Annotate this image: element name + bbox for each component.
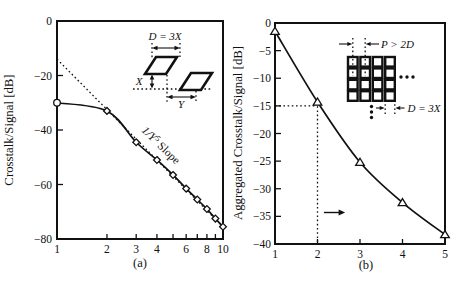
x-tick-label: 3: [357, 248, 363, 260]
ellipsis-dot: [370, 116, 373, 119]
panel-label-a: (a): [133, 256, 147, 270]
x-tick-label: 6: [183, 243, 189, 255]
antenna-cell: [385, 91, 395, 101]
inset-x-label: X: [135, 75, 144, 87]
y-tick-label: −20: [253, 128, 271, 140]
inset-d-label: D = 3X: [147, 30, 182, 42]
plot-area-b: 123450−5−10−15−20−25−30−35−40: [253, 17, 449, 260]
slope-annotation: 1/Y5 Slope: [139, 123, 183, 167]
arrow-right-icon: [347, 42, 352, 46]
antenna-cell: [360, 91, 370, 101]
antenna-cell: [373, 68, 383, 78]
data-marker-triangle: [271, 27, 280, 34]
arrow-down-icon: [150, 84, 155, 89]
ellipsis-dot: [370, 105, 373, 108]
arrow-right-icon: [380, 106, 385, 110]
y-tick-label: −60: [34, 179, 52, 191]
crosstalk-curve: [57, 103, 223, 227]
figure-crosstalk: Crosstalk/Signal [dB] (a) 1/Y5 Slope: [0, 0, 465, 286]
antenna-cell: [348, 80, 358, 90]
data-marker-triangle: [313, 98, 322, 105]
antenna-cell: [348, 91, 358, 101]
x-tick-label: 2: [315, 248, 321, 260]
inset-p-label: P > 2D: [380, 38, 414, 50]
plot-area-a: 123468100−20−40−60−80: [34, 15, 229, 255]
y-tick-label: −5: [259, 45, 271, 57]
antenna-cell: [360, 80, 370, 90]
y-tick-label: −80: [34, 233, 52, 245]
antenna-cell: [348, 57, 358, 67]
arrow-left-icon: [167, 95, 173, 100]
plot-frame-a: [57, 21, 223, 239]
x-tick-label: 4: [400, 248, 406, 260]
panel-label-b: (b): [359, 258, 374, 272]
arrow-left-icon: [366, 42, 371, 46]
y-tick-label: 0: [46, 15, 52, 27]
antenna-cell: [373, 57, 383, 67]
arrow-right-icon: [191, 95, 197, 100]
ellipsis-dot: [370, 110, 373, 113]
y-axis-title-b: Aggregated Crosstalk/Signal [dB]: [232, 46, 245, 220]
arrow-left-icon: [395, 106, 400, 110]
x-tick-label: 1: [54, 243, 60, 255]
inset-antenna-pair: D = 3X X Y: [133, 30, 212, 110]
inset-antenna-array: P > 2D D = 3X: [339, 38, 442, 119]
y-tick-label: −30: [253, 183, 271, 195]
inset-y-label: Y: [178, 98, 186, 110]
arrow-right-icon: [175, 46, 181, 51]
x-tick-label: 10: [217, 243, 229, 255]
data-marker-circle: [54, 99, 61, 106]
panel-a-svg: Crosstalk/Signal [dB] (a) 1/Y5 Slope: [0, 0, 232, 286]
x-tick-label: 3: [133, 243, 139, 255]
ellipsis-dot: [411, 75, 414, 78]
y-axis-title-a: Crosstalk/Signal [dB]: [2, 74, 16, 185]
antenna-parallelogram-1: [145, 57, 177, 74]
y-tick-label: −25: [253, 155, 271, 167]
ellipsis-dot: [399, 75, 402, 78]
inset-d-label: D = 3X: [407, 102, 442, 114]
y-tick-label: −40: [34, 124, 52, 136]
ellipsis-dot: [405, 75, 408, 78]
y-tick-label: 0: [265, 17, 271, 29]
x-tick-label: 5: [442, 248, 448, 260]
antenna-cell: [385, 68, 395, 78]
antenna-cell: [360, 57, 370, 67]
antenna-cell: [385, 80, 395, 90]
y-tick-label: −35: [253, 210, 271, 222]
antenna-cell: [373, 80, 383, 90]
arrow-right-icon: [339, 210, 346, 216]
x-tick-label: 2: [104, 243, 110, 255]
antenna-grid: [348, 57, 395, 101]
panel-b-svg: Aggregated Crosstalk/Signal [dB] (b) P >…: [232, 0, 465, 286]
antenna-cell: [373, 91, 383, 101]
y-tick-label: −40: [253, 238, 271, 250]
x-tick-label: 1: [272, 248, 278, 260]
antenna-parallelogram-2: [180, 73, 212, 90]
y-tick-label: −10: [253, 72, 271, 84]
y-tick-label: −15: [253, 100, 271, 112]
x-tick-label: 8: [204, 243, 210, 255]
y-tick-label: −20: [34, 70, 52, 82]
antenna-cell: [385, 57, 395, 67]
arrow-left-icon: [152, 46, 158, 51]
x-tick-label: 4: [154, 243, 160, 255]
